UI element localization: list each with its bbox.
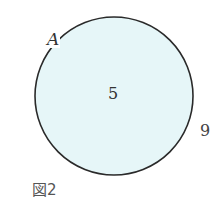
outside-count: 9 <box>200 121 210 140</box>
set-a-label: A <box>47 29 59 49</box>
venn-diagram: A 5 9 図2 <box>0 0 223 212</box>
set-a-count: 5 <box>108 84 118 103</box>
figure-caption: 図2 <box>32 178 57 199</box>
